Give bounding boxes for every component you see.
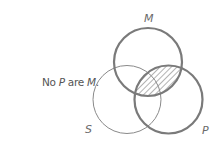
venn-diagram: M S P (0, 0, 220, 144)
circle-s (93, 66, 161, 134)
label-p: P (202, 124, 209, 137)
label-m: M (144, 12, 154, 25)
label-s: S (85, 123, 92, 136)
